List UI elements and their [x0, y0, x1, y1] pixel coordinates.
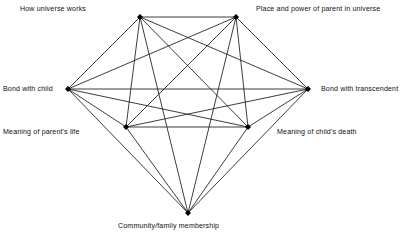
node-label-meaning-parents-life: Meaning of parent's life [3, 128, 80, 137]
graph-edge [126, 17, 236, 127]
node-label-place-power-parent: Place and power of parent in universe [256, 5, 380, 14]
network-diagram-figure: How universe worksPlace and power of par… [0, 0, 415, 232]
node-label-bond-with-child: Bond with child [3, 85, 53, 94]
graph-edge [236, 17, 308, 89]
graph-canvas [0, 0, 415, 232]
edge-layer [68, 17, 308, 213]
graph-edge [248, 89, 308, 127]
graph-edge [236, 17, 248, 127]
node-label-how-universe-works: How universe works [20, 5, 86, 14]
graph-edge [140, 17, 308, 89]
node-label-community-family: Community/family membership [118, 222, 219, 231]
graph-edge [140, 17, 188, 213]
graph-edge [188, 127, 248, 213]
node-layer [65, 14, 311, 216]
graph-edge [68, 89, 188, 213]
graph-edge [68, 17, 236, 89]
graph-edge [188, 17, 236, 213]
graph-edge [68, 17, 140, 89]
node-label-meaning-childs-death: Meaning of child's death [277, 128, 357, 137]
graph-edge [126, 127, 188, 213]
node-label-bond-with-transcendent: Bond with transcendent [321, 85, 398, 94]
graph-edge [188, 89, 308, 213]
graph-edge [126, 17, 140, 127]
